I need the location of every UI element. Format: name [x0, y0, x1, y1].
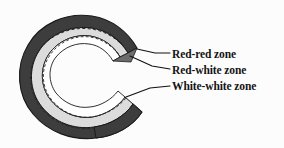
meniscus-zone-diagram: Red-red zone Red-white zone White-white …	[0, 0, 284, 148]
leader-line-red-white	[130, 56, 170, 69]
label-red-red-zone: Red-red zone	[172, 46, 284, 62]
leader-line-red-red	[137, 49, 170, 53]
label-white-white-zone: White-white zone	[172, 78, 284, 94]
leader-line-white-white	[126, 86, 170, 97]
label-red-white-zone: Red-white zone	[172, 62, 284, 78]
zone-label-list: Red-red zone Red-white zone White-white …	[172, 46, 284, 94]
